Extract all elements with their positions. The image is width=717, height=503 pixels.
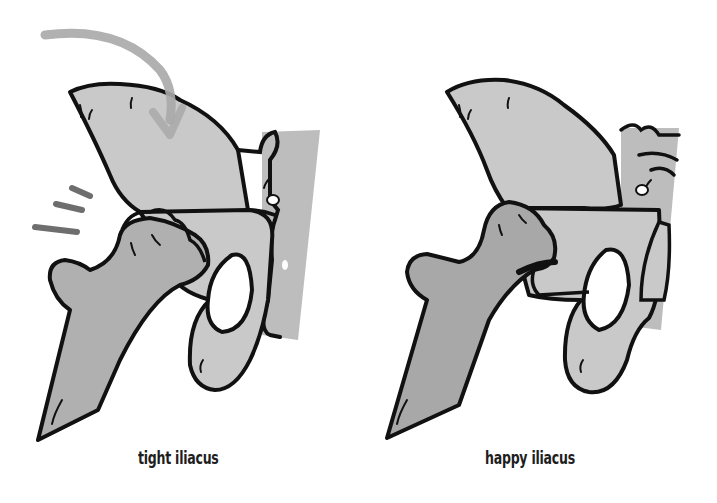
motion-lines-icon (35, 188, 90, 232)
hip-illustration-happy (359, 0, 717, 503)
panel-tight-iliacus: tight iliacus (0, 0, 358, 503)
ilium-wing (70, 84, 248, 214)
caption-tight-iliacus: tight iliacus (138, 448, 219, 468)
ilium-wing (447, 80, 621, 209)
hip-illustration-tight (0, 0, 358, 503)
caption-happy-iliacus: happy iliacus (485, 448, 575, 468)
panel-happy-iliacus: happy iliacus (359, 0, 717, 503)
femur (387, 202, 555, 438)
femur (38, 218, 208, 440)
